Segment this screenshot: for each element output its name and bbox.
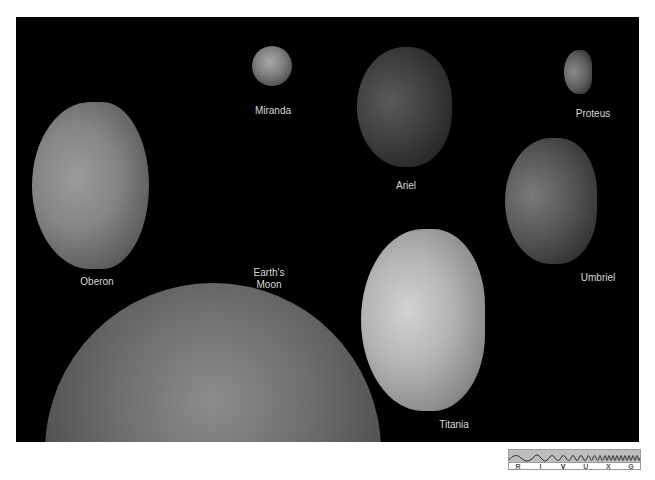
band-u: U (581, 463, 591, 469)
oberon-label: Oberon (73, 276, 121, 288)
band-x: X (603, 463, 613, 469)
band-i: I (536, 463, 546, 469)
earths-moon-label: Earth's Moon (244, 267, 294, 291)
titania-label: Titania (429, 419, 479, 431)
band-v: V (558, 463, 568, 469)
band-g: G (626, 463, 636, 469)
miranda-image (252, 46, 292, 86)
moons-photo-panel: Miranda Ariel Proteus Oberon Umbriel Ear… (16, 17, 639, 442)
ariel-image (357, 47, 452, 167)
umbriel-label: Umbriel (568, 272, 628, 284)
oberon-image (32, 102, 149, 269)
umbriel-image (505, 138, 597, 264)
earths-moon-image (45, 283, 381, 442)
proteus-image (564, 50, 592, 94)
titania-image (361, 229, 485, 411)
miranda-label: Miranda (244, 105, 302, 117)
band-r: R (513, 463, 523, 469)
proteus-label: Proteus (568, 108, 618, 120)
ariel-label: Ariel (386, 180, 426, 192)
wave-icon (509, 450, 640, 462)
spectrum-bands: R I V U X G (509, 462, 640, 469)
spectrum-indicator: R I V U X G (508, 449, 641, 470)
